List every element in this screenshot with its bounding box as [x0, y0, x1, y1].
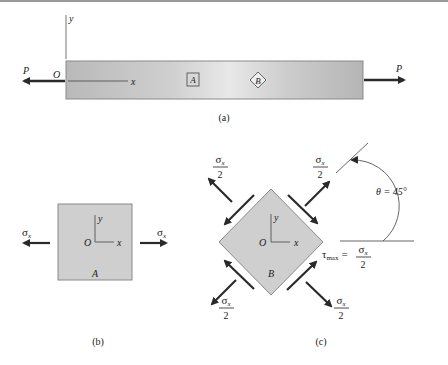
panel-a: y x O P P A B (a) — [22, 13, 404, 124]
origin-label: O — [84, 237, 91, 248]
stress-fraction-bottom-left: σx 2 — [219, 294, 234, 321]
caption-c: (c) — [315, 336, 326, 348]
normal-arrow-top-left — [209, 179, 232, 202]
caption-a: (a) — [218, 112, 229, 124]
stress-fraction-bottom-right: σx 2 — [334, 294, 349, 321]
load-label-left: P — [22, 65, 29, 76]
x-axis-label: x — [293, 237, 299, 248]
origin-label: O — [259, 237, 266, 248]
bar — [66, 61, 363, 99]
svg-text:2: 2 — [339, 310, 344, 321]
angle-label: θ = 45° — [376, 186, 407, 197]
stress-label-right: σx — [157, 226, 167, 240]
stress-fraction-top-right: σx 2 — [313, 153, 328, 180]
svg-text:2: 2 — [318, 169, 323, 180]
tau-max-label: τmax= σx 2 — [322, 243, 371, 270]
stress-diagram: y x O P P A B (a) y x O A σx — [0, 0, 448, 365]
origin-label: O — [53, 69, 60, 80]
normal-arrow-bottom-right — [306, 282, 331, 306]
element-a-label: A — [189, 75, 196, 85]
x-axis-label: x — [116, 237, 122, 248]
stress-label-left: σx — [22, 226, 32, 240]
panel-b: y x O A σx σx (b) — [22, 204, 167, 348]
rotated-reference-line — [336, 143, 368, 173]
svg-text:τmax=: τmax= — [322, 248, 348, 262]
svg-text:σx: σx — [221, 294, 231, 308]
element-b-label: B — [255, 76, 261, 86]
panel-c: y x O B σx 2 σx 2 σx 2 σx — [209, 143, 414, 348]
element-label: B — [268, 268, 274, 279]
svg-text:2: 2 — [224, 310, 229, 321]
svg-text:σx: σx — [358, 243, 368, 257]
angle-arc — [352, 160, 399, 241]
stress-fraction-top-left: σx 2 — [213, 153, 228, 180]
element-label: A — [91, 268, 99, 279]
svg-text:σx: σx — [315, 153, 325, 167]
y-axis-label: y — [97, 213, 103, 224]
caption-b: (b) — [92, 336, 104, 348]
svg-text:σx: σx — [336, 294, 346, 308]
svg-text:2: 2 — [361, 259, 366, 270]
normal-arrow-top-right — [305, 182, 329, 206]
x-axis-label: x — [130, 76, 136, 87]
svg-text:σx: σx — [215, 153, 225, 167]
y-axis-label: y — [273, 212, 279, 223]
svg-text:2: 2 — [218, 169, 223, 180]
load-label-right: P — [395, 63, 402, 74]
y-axis-label: y — [68, 13, 74, 24]
